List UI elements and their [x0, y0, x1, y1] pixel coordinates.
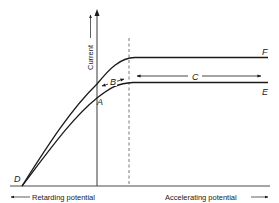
x-axis-left-label: Retarding potential — [32, 193, 95, 202]
photoelectric-diagram: B C F E A D Current Retarding potential … — [0, 0, 279, 203]
label-c: C — [192, 72, 199, 82]
label-b: B — [110, 77, 116, 87]
x-axis-right-label: Accelerating potential — [165, 193, 237, 202]
y-axis-arrow-icon — [95, 9, 100, 16]
curve-e — [22, 83, 268, 187]
label-a: A — [96, 97, 103, 107]
label-f: F — [262, 47, 268, 57]
y-axis-label: Current — [86, 44, 95, 70]
curve-f — [22, 58, 268, 187]
label-d: D — [14, 174, 21, 184]
label-e: E — [262, 87, 269, 97]
